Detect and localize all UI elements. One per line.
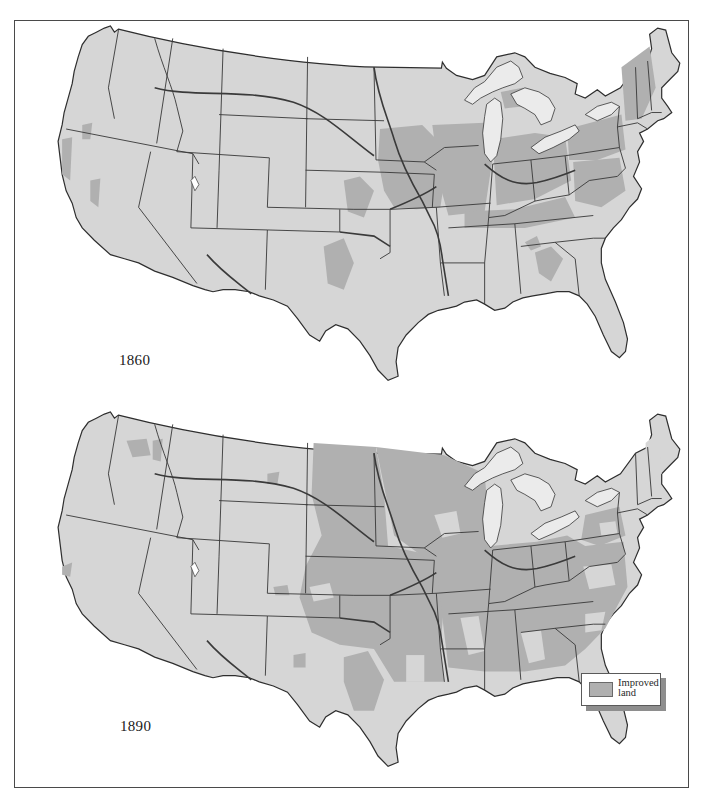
year-label-1890: 1890 xyxy=(120,718,151,735)
map-panel-1860 xyxy=(58,26,680,380)
year-label-1860: 1860 xyxy=(119,352,150,369)
map-legend: Improved land xyxy=(581,673,661,706)
improved-land-swatch-icon xyxy=(589,682,613,697)
map-panel-1890 xyxy=(58,412,680,766)
legend-label-improved-land: Improved land xyxy=(618,678,662,698)
